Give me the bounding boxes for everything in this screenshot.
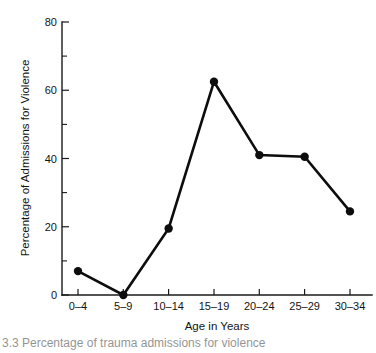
y-axis-title: Percentage of Admissions for Violence [19, 60, 31, 257]
figure-caption-clip: 3.3 Percentage of trauma admissions for … [0, 338, 376, 353]
data-point [346, 207, 354, 215]
figure-container: 80 60 40 20 0 0–4 5–9 10–14 15–19 20–24 … [0, 0, 376, 353]
y-tick-label: 0 [51, 289, 57, 301]
y-tick-label: 20 [45, 221, 57, 233]
data-point [300, 153, 308, 161]
data-point [119, 291, 127, 299]
line-chart: 80 60 40 20 0 0–4 5–9 10–14 15–19 20–24 … [0, 0, 376, 353]
y-tick-label: 40 [45, 153, 57, 165]
x-tick-label: 25–29 [289, 300, 320, 312]
x-tick-label: 30–34 [335, 300, 366, 312]
data-point [210, 78, 218, 86]
x-tick-label: 5–9 [114, 300, 132, 312]
x-axis-title: Age in Years [185, 320, 250, 332]
y-tick-label: 80 [45, 16, 57, 28]
x-tick-label: 20–24 [244, 300, 275, 312]
x-tick-label: 0–4 [69, 300, 87, 312]
y-tick-label: 60 [45, 84, 57, 96]
figure-caption: 3.3 Percentage of trauma admissions for … [2, 338, 265, 350]
data-point [255, 151, 263, 159]
data-point [164, 224, 172, 232]
x-tick-label: 10–14 [153, 300, 184, 312]
x-tick-label: 15–19 [199, 300, 230, 312]
data-point [74, 267, 82, 275]
